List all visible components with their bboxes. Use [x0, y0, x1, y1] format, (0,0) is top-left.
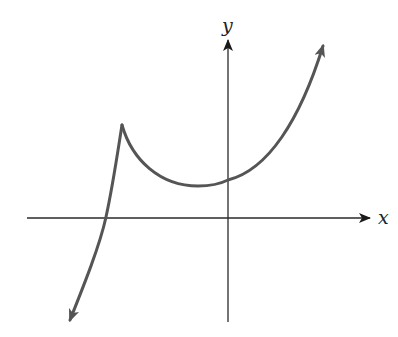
x-axis-label: x — [378, 206, 389, 228]
curve-left-branch — [70, 125, 122, 320]
curve-right-branch — [122, 46, 323, 186]
graph-svg: x y — [0, 0, 398, 337]
graph-figure: x y — [0, 0, 398, 337]
y-axis-label: y — [221, 14, 233, 36]
